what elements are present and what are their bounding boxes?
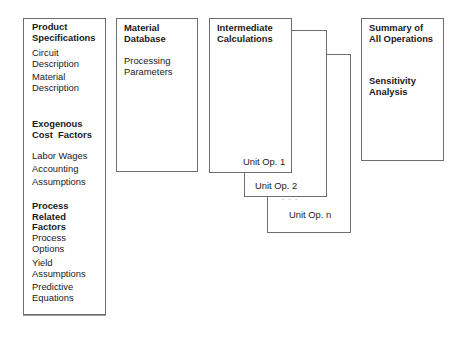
unit-op-1-label: Unit Op. 1 <box>243 156 285 167</box>
labor-wages-item: Labor Wages <box>32 151 87 162</box>
processing-parameters-item: Processing Parameters <box>124 56 172 77</box>
circuit-description-item: Circuit Description <box>32 48 79 69</box>
unit-op-n-label: Unit Op. n <box>289 209 331 220</box>
exogenous-cost-factors-heading: Exogenous Cost Factors <box>32 119 92 140</box>
product-specifications-heading: Product Specifications <box>32 22 96 43</box>
intermediate-calculations-heading: Intermediate Calculations <box>217 23 273 44</box>
material-database-box: Material Database Processing Parameters <box>116 18 198 172</box>
intermediate-calculations-box: Intermediate Calculations Unit Op. 1 <box>209 18 292 173</box>
material-description-item: Material Description <box>32 72 79 93</box>
inputs-box: Product Specifications Circuit Descripti… <box>23 18 106 315</box>
summary-box: Summary of All Operations Sensitivity An… <box>361 18 444 161</box>
yield-assumptions-item: Yield Assumptions <box>32 258 86 279</box>
summary-heading: Summary of All Operations <box>369 23 433 44</box>
process-related-factors-heading: Process Related Factors <box>32 201 68 233</box>
accounting-assumptions-item: Accounting Assumptions <box>32 164 86 187</box>
predictive-equations-item: Predictive Equations <box>32 282 74 303</box>
material-database-heading: Material Database <box>124 23 166 44</box>
unit-op-2-label: Unit Op. 2 <box>255 180 297 191</box>
sensitivity-analysis-item: Sensitivity Analysis <box>369 76 416 97</box>
process-options-item: Process Options <box>32 233 66 254</box>
